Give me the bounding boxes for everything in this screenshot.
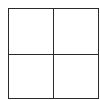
two-by-two-grid <box>8 8 99 99</box>
horizontal-divider <box>9 54 98 55</box>
